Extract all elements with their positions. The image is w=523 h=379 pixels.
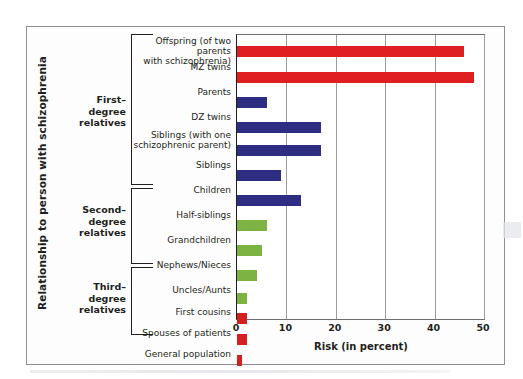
group-label-third-line1: Third– — [54, 281, 126, 293]
bar-2 — [237, 97, 267, 108]
bar-9 — [237, 270, 257, 281]
category-label-nephews-nieces: Nephews/Nieces — [127, 260, 231, 270]
group-label-second-line1: Second– — [54, 204, 126, 216]
group-label-third-line3: relatives — [54, 304, 126, 316]
group-label-first-line1: First– — [54, 94, 126, 106]
group-label-first-line3: relatives — [54, 117, 126, 129]
x-tick-label-30: 30 — [378, 322, 391, 333]
category-label-first-cousins: First cousins — [127, 307, 231, 317]
x-tick-label-20: 20 — [328, 322, 341, 333]
category-label-grandchildren: Grandchildren — [127, 235, 231, 245]
group-label-second-degree: Second– degree relatives — [54, 204, 126, 239]
scan-artifact-right — [503, 222, 521, 238]
bar-5 — [237, 170, 281, 181]
group-label-third-line2: degree — [54, 293, 126, 305]
group-label-first-line2: degree — [54, 106, 126, 118]
bar-4 — [237, 145, 321, 156]
bar-13 — [237, 355, 242, 366]
group-label-first-degree: First– degree relatives — [54, 94, 126, 129]
x-tick-label-50: 50 — [476, 322, 489, 333]
category-label-parents: Parents — [127, 87, 231, 97]
bar-6 — [237, 195, 301, 206]
category-label-siblings: Siblings — [127, 160, 231, 170]
gridline-50 — [484, 35, 485, 319]
group-label-second-line2: degree — [54, 216, 126, 228]
x-tick-label-10: 10 — [279, 322, 292, 333]
scan-artifact-bottom — [30, 370, 450, 373]
bar-0 — [237, 46, 464, 57]
group-label-third-degree: Third– degree relatives — [54, 281, 126, 316]
plot-area — [236, 34, 485, 320]
category-label-children: Children — [127, 185, 231, 195]
category-label-half-siblings: Half-siblings — [127, 210, 231, 220]
category-label-siblings-one-parent: Siblings (with one schizophrenic parent) — [127, 130, 231, 150]
bar-8 — [237, 245, 262, 256]
category-label-offspring-line1: Offspring (of two parents — [127, 36, 231, 56]
bar-10 — [237, 293, 247, 304]
category-label-mz-twins: MZ twins — [127, 62, 231, 72]
bar-3 — [237, 122, 321, 133]
category-labels: Offspring (of two parents with schizophr… — [128, 34, 234, 320]
x-axis-title: Risk (in percent) — [236, 341, 486, 352]
bar-1 — [237, 72, 474, 83]
x-tick-label-0: 0 — [233, 322, 240, 333]
x-axis-ticks: 01020304050 — [236, 322, 486, 336]
category-label-general-population: General population — [127, 349, 231, 359]
category-label-siblings-one-parent-line1: Siblings (with one — [127, 130, 231, 140]
y-axis-title: Relationship to person with schizophreni… — [34, 60, 50, 310]
group-label-second-line3: relatives — [54, 227, 126, 239]
category-label-siblings-one-parent-line2: schizophrenic parent) — [127, 140, 231, 150]
category-label-dz-twins: DZ twins — [127, 112, 231, 122]
category-label-uncles-aunts: Uncles/Aunts — [127, 285, 231, 295]
x-tick-label-40: 40 — [427, 322, 440, 333]
category-label-spouses: Spouses of patients — [127, 328, 231, 338]
bar-7 — [237, 220, 267, 231]
